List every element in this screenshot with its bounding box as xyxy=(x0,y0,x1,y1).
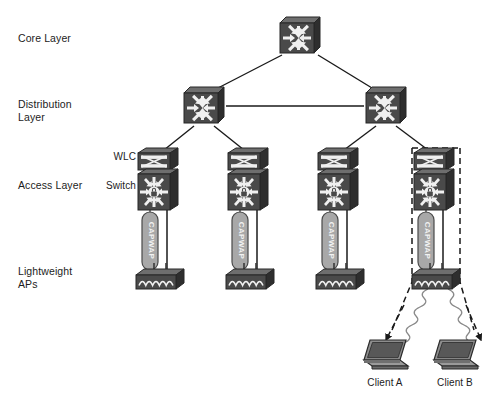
link-dist-right-to-access-3 xyxy=(344,126,376,150)
link-dist-left-to-access-1 xyxy=(164,126,194,150)
rf-helix-client-b xyxy=(448,289,472,343)
distribution-switch-right[interactable] xyxy=(366,87,406,123)
link-dist-left-to-access-2 xyxy=(214,126,244,150)
capwap-tunnel-group xyxy=(142,212,434,270)
rf-helix-group xyxy=(404,289,472,343)
access-switch-1[interactable] xyxy=(138,169,178,210)
node-label-wlc: WLC xyxy=(84,151,136,163)
layer-label-core: Core Layer xyxy=(18,32,71,45)
client-a-laptop[interactable] xyxy=(364,340,408,369)
link-group-core-distribution xyxy=(218,55,372,106)
rf-helix-client-a xyxy=(404,289,428,343)
capwap-tunnel-4 xyxy=(418,212,434,270)
client-b-laptop[interactable] xyxy=(434,340,478,369)
access-switch-4[interactable] xyxy=(414,169,454,210)
wlc-1[interactable] xyxy=(138,148,178,170)
capwap-tunnel-2 xyxy=(232,212,248,270)
wlc-2[interactable] xyxy=(228,148,268,170)
wlc-4[interactable] xyxy=(414,148,454,170)
dashed-left-rail xyxy=(392,148,412,330)
capwap-tunnel-1 xyxy=(142,212,158,270)
link-core-to-dist-left xyxy=(218,55,282,88)
capwap-tunnel-3 xyxy=(322,212,338,270)
access-switch-3[interactable] xyxy=(318,169,358,210)
link-dist-right-to-access-4 xyxy=(396,126,428,150)
link-core-to-dist-right xyxy=(318,55,372,88)
dashed-arrow-to-client-a xyxy=(386,305,404,340)
link-group-access-ap xyxy=(167,208,443,272)
dashed-right-rail xyxy=(460,148,474,330)
client-a-label: Client A xyxy=(355,377,415,389)
access-switch-2[interactable] xyxy=(228,169,268,210)
distribution-switch-left[interactable] xyxy=(184,87,224,123)
layer-label-lightweight-aps: Lightweight APs xyxy=(18,265,72,290)
network-topology-diagram: Core Layer Distribution Layer Access Lay… xyxy=(0,0,503,396)
layer-label-access: Access Layer xyxy=(18,179,82,192)
capwap-stub-group xyxy=(150,206,426,275)
core-switch[interactable] xyxy=(280,17,320,53)
dashed-arrow-to-client-b xyxy=(466,305,481,340)
wlc-3[interactable] xyxy=(318,148,358,170)
layer-label-distribution: Distribution Layer xyxy=(18,98,72,123)
node-label-switch: Switch xyxy=(84,180,136,192)
client-b-label: Client B xyxy=(425,377,485,389)
link-group-distribution-access xyxy=(164,126,428,150)
topology-canvas xyxy=(0,0,503,396)
